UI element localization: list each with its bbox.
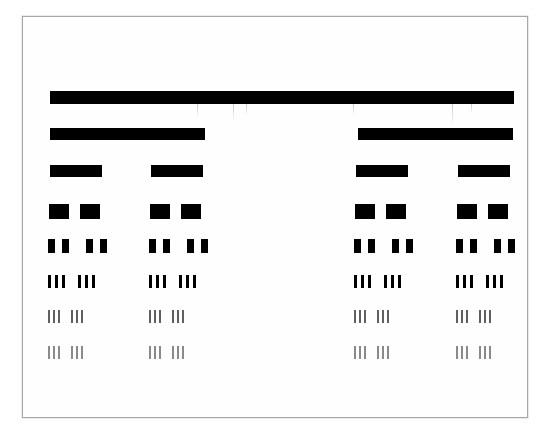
row-7-triple-finer-bars-group-3	[354, 310, 389, 323]
row-8-triple-finest-bars	[23, 346, 527, 359]
row-3-four-medium-bars-subgroup	[356, 165, 408, 177]
pattern-bar	[358, 128, 513, 140]
pattern-bar	[368, 275, 371, 288]
row-8-triple-finest-bars-subgroup	[377, 346, 389, 359]
row-5-double-narrow-bars-subgroup	[149, 239, 170, 253]
pattern-bar	[48, 310, 50, 323]
row-8-triple-finest-bars-group-3	[354, 346, 389, 359]
row-1-single-wide-bar-subgroup	[50, 91, 514, 104]
pattern-bar	[489, 310, 491, 323]
row-7-triple-finer-bars-subgroup	[479, 310, 491, 323]
scan-streak-6	[471, 104, 472, 113]
pattern-bar	[80, 204, 100, 219]
row-8-triple-finest-bars-subgroup	[71, 346, 83, 359]
pattern-bar	[163, 239, 170, 253]
scan-streak-1	[197, 104, 198, 118]
pattern-bar	[489, 346, 491, 359]
row-5-double-narrow-bars-subgroup	[48, 239, 69, 253]
pattern-bar	[458, 165, 510, 177]
pattern-bar	[85, 275, 88, 288]
bar-pattern-area	[23, 17, 527, 417]
pattern-bar	[92, 275, 95, 288]
pattern-bar	[479, 310, 481, 323]
pattern-bar	[364, 310, 366, 323]
row-3-four-medium-bars-group-2	[151, 165, 203, 177]
row-8-triple-finest-bars-group-2	[149, 346, 184, 359]
row-3-four-medium-bars-subgroup	[50, 165, 102, 177]
row-6-triple-thin-bars-subgroup	[48, 275, 65, 288]
row-8-triple-finest-bars-group-1	[48, 346, 83, 359]
pattern-bar	[48, 275, 51, 288]
row-8-triple-finest-bars-subgroup	[354, 346, 366, 359]
row-4-squares-pairs-subgroup	[49, 204, 100, 219]
pattern-bar	[50, 91, 514, 104]
pattern-bar	[406, 239, 413, 253]
pattern-bar	[356, 165, 408, 177]
row-6-triple-thin-bars-subgroup	[456, 275, 473, 288]
pattern-bar	[470, 239, 477, 253]
pattern-bar	[354, 310, 356, 323]
pattern-bar	[48, 346, 50, 359]
row-4-squares-pairs-subgroup	[457, 204, 508, 219]
pattern-bar	[149, 346, 151, 359]
pattern-bar	[457, 204, 477, 219]
scan-streak-2	[233, 104, 234, 122]
pattern-bar	[354, 239, 361, 253]
row-5-double-narrow-bars-group-1	[48, 239, 107, 253]
pattern-bar	[76, 346, 78, 359]
pattern-bar	[456, 346, 458, 359]
pattern-bar	[382, 346, 384, 359]
pattern-bar	[86, 239, 93, 253]
row-6-triple-thin-bars-subgroup	[384, 275, 401, 288]
pattern-bar	[159, 346, 161, 359]
pattern-bar	[81, 310, 83, 323]
row-4-squares-pairs-subgroup	[355, 204, 406, 219]
row-7-triple-finer-bars-group-1	[48, 310, 83, 323]
row-4-squares-pairs-group-3	[355, 204, 406, 219]
row-3-four-medium-bars-group-3	[356, 165, 408, 177]
pattern-bar	[384, 275, 387, 288]
pattern-bar	[150, 204, 170, 219]
row-7-triple-finer-bars-subgroup	[354, 310, 366, 323]
pattern-bar	[368, 239, 375, 253]
pattern-bar	[201, 239, 208, 253]
row-5-double-narrow-bars-group-3	[354, 239, 413, 253]
pattern-bar	[361, 275, 364, 288]
row-4-squares-pairs-group-4	[457, 204, 508, 219]
row-5-double-narrow-bars-subgroup	[456, 239, 477, 253]
pattern-bar	[156, 275, 159, 288]
row-7-triple-finer-bars-subgroup	[456, 310, 468, 323]
pattern-bar	[387, 310, 389, 323]
row-6-triple-thin-bars-subgroup	[78, 275, 95, 288]
pattern-bar	[354, 346, 356, 359]
row-5-double-narrow-bars-group-2	[149, 239, 208, 253]
row-4-squares-pairs-subgroup	[150, 204, 201, 219]
pattern-bar	[354, 275, 357, 288]
pattern-bar	[48, 239, 55, 253]
pattern-bar	[387, 346, 389, 359]
row-2-two-wide-bars-subgroup	[50, 128, 205, 140]
pattern-bar	[177, 310, 179, 323]
pattern-bar	[182, 310, 184, 323]
pattern-bar	[179, 275, 182, 288]
row-3-four-medium-bars-group-1	[50, 165, 102, 177]
row-5-double-narrow-bars-subgroup	[86, 239, 107, 253]
pattern-bar	[50, 128, 205, 140]
row-1-single-wide-bar-group-1	[50, 91, 514, 104]
pattern-bar	[53, 310, 55, 323]
row-3-four-medium-bars-group-4	[458, 165, 510, 177]
pattern-bar	[182, 346, 184, 359]
row-2-two-wide-bars-subgroup	[358, 128, 513, 140]
pattern-bar	[55, 275, 58, 288]
pattern-bar	[149, 275, 152, 288]
pattern-bar	[466, 310, 468, 323]
pattern-bar	[149, 310, 151, 323]
row-8-triple-finest-bars-subgroup	[479, 346, 491, 359]
row-7-triple-finer-bars-subgroup	[48, 310, 60, 323]
pattern-bar	[488, 204, 508, 219]
pattern-bar	[484, 310, 486, 323]
row-3-four-medium-bars-subgroup	[151, 165, 203, 177]
pattern-bar	[163, 275, 166, 288]
pattern-bar	[493, 275, 496, 288]
row-7-triple-finer-bars-group-2	[149, 310, 184, 323]
